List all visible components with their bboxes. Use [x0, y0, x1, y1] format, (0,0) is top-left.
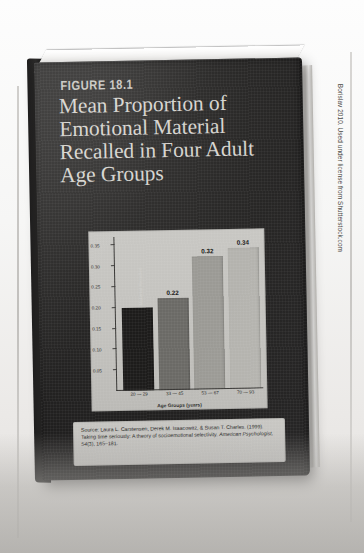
bar-column: 0.34 — [227, 234, 261, 389]
y-axis-line — [113, 237, 117, 391]
bar-value-label: 0.32 — [201, 247, 213, 254]
y-axis-tick — [111, 265, 115, 266]
bar-value-label: 0.34 — [237, 238, 249, 245]
bar-value-label: 0.22 — [166, 289, 178, 296]
bar — [192, 256, 226, 390]
x-axis-tick-labels: 20 — 2933 — 4553 — 6770 — 93 — [121, 389, 263, 400]
bar-column: 0.22 — [156, 236, 190, 391]
y-axis-tick-label: 0.10 — [92, 347, 101, 352]
y-axis-tick — [113, 369, 117, 370]
x-axis-tick-label: 20 — 29 — [123, 391, 154, 400]
y-axis-tick — [112, 307, 116, 308]
y-axis-tick — [110, 244, 114, 245]
book-photograph: FIGURE 18.1 Mean Proportion of Emotional… — [0, 0, 364, 553]
y-axis-tick — [112, 328, 116, 329]
figure-title-line-3: Recalled in Four Adult — [60, 137, 288, 164]
x-axis-tick-label: 33 — 45 — [159, 391, 190, 400]
figure-title: Mean Proportion of Emotional Material Re… — [59, 91, 289, 187]
y-axis-tick-label: 0.25 — [91, 285, 100, 290]
bar-series: 0.220.320.34 — [118, 234, 263, 391]
bar — [122, 307, 155, 391]
y-axis-tick — [112, 348, 116, 349]
figure-number: FIGURE 18.1 — [60, 77, 133, 93]
bar — [157, 298, 190, 390]
y-axis-tick — [111, 286, 115, 287]
y-axis-ticks: 0.050.100.150.200.250.300.35 — [88, 228, 264, 231]
hardcover-book: FIGURE 18.1 Mean Proportion of Emotional… — [34, 57, 310, 482]
photo-floor-shadow — [0, 433, 364, 553]
y-axis-tick-label: 0.30 — [91, 264, 100, 269]
y-axis-tick-label: 0.15 — [92, 326, 101, 331]
y-axis-tick-label: 0.35 — [90, 243, 99, 248]
bar-column — [120, 236, 154, 391]
book-front-cover: FIGURE 18.1 Mean Proportion of Emotional… — [34, 57, 310, 480]
bar-chart: Mean Proportion of Emotional Material Re… — [88, 228, 267, 411]
bar-column: 0.32 — [191, 235, 225, 390]
y-axis-tick-label: 0.05 — [93, 368, 102, 373]
photo-credit: Borislav 2010. Used under license from S… — [337, 84, 344, 252]
figure-title-line-4: Age Groups — [60, 160, 288, 187]
x-axis-title: Age Groups (years) — [92, 401, 268, 409]
x-axis-tick-label: 53 — 67 — [194, 390, 225, 399]
bar — [227, 247, 261, 389]
x-axis-tick-label: 70 — 93 — [230, 389, 261, 398]
y-axis-tick-label: 0.20 — [92, 306, 101, 311]
